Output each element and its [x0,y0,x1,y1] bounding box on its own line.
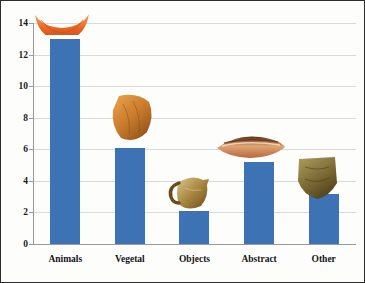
y-tick-label: 10 [19,81,29,91]
y-tick-label: 12 [19,50,29,60]
x-tick-label-objects: Objects [179,254,210,264]
y-tick-mark [29,55,33,56]
bar-animals[interactable] [50,39,80,244]
y-tick-label: 14 [19,18,29,28]
x-tick-label-abstract: Abstract [241,254,276,264]
y-tick-label: 4 [23,176,28,186]
plot-area: AnimalsVegetalObjectsAbstractOther [33,23,356,244]
y-tick-mark [29,23,33,24]
y-tick-label: 6 [23,144,28,154]
y-tick-mark [29,244,33,245]
y-tick-mark [29,149,33,150]
gridline [33,244,356,245]
bar-slot: Objects [162,23,227,244]
y-tick-label: 8 [23,113,28,123]
x-tick-label-vegetal: Vegetal [115,254,145,264]
x-tick-label-other: Other [312,254,336,264]
y-tick-label: 0 [23,239,28,249]
y-tick-mark [29,118,33,119]
y-tick-mark [29,212,33,213]
bar-slot: Animals [33,23,98,244]
bar-objects[interactable] [179,211,209,244]
y-tick-mark [29,86,33,87]
bar-slot: Other [291,23,356,244]
bar-slot: Abstract [227,23,292,244]
y-tick-label: 2 [23,207,28,217]
y-tick-mark [29,181,33,182]
y-axis-line: 02468101214 [33,23,34,244]
bar-abstract[interactable] [244,162,274,244]
bar-other[interactable] [309,194,339,245]
bar-slot: Vegetal [98,23,163,244]
bar-chart-figure: AnimalsVegetalObjectsAbstractOther 02468… [0,0,365,283]
x-tick-label-animals: Animals [48,254,82,264]
bar-vegetal[interactable] [115,148,145,244]
